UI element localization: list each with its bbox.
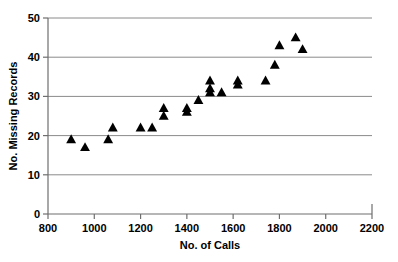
y-tick-label: 10 bbox=[28, 169, 40, 181]
x-tick-label: 2000 bbox=[313, 222, 337, 234]
x-tick-label: 1000 bbox=[82, 222, 106, 234]
scatter-chart: 01020304050 8001000120014001600180020002… bbox=[0, 0, 398, 262]
x-axis-title: No. of Calls bbox=[180, 239, 241, 251]
y-tick-label: 40 bbox=[28, 51, 40, 63]
x-tick-label: 1200 bbox=[128, 222, 152, 234]
x-tick-label: 1400 bbox=[175, 222, 199, 234]
x-tick-label: 1800 bbox=[267, 222, 291, 234]
x-tick-label: 2200 bbox=[360, 222, 384, 234]
y-axis-title: No. Missing Records bbox=[7, 62, 19, 171]
x-tick-label: 1600 bbox=[221, 222, 245, 234]
y-tick-label: 0 bbox=[34, 208, 40, 220]
y-tick-label: 20 bbox=[28, 130, 40, 142]
x-tick-label: 800 bbox=[39, 222, 57, 234]
y-tick-label: 30 bbox=[28, 90, 40, 102]
y-tick-label: 50 bbox=[28, 12, 40, 24]
